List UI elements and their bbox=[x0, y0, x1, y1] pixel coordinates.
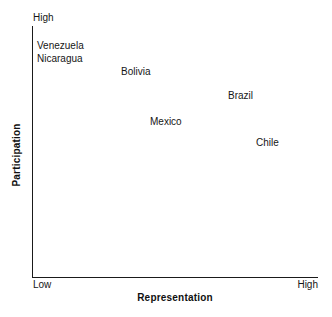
data-point-label: Venezuela bbox=[37, 40, 84, 52]
data-point-label: Bolivia bbox=[121, 66, 150, 78]
data-point-label: Nicaragua bbox=[37, 53, 83, 65]
x-axis-line bbox=[32, 277, 318, 278]
y-axis-high-tick-label: High bbox=[33, 12, 54, 24]
y-axis-title: Participation bbox=[11, 123, 23, 186]
x-axis-low-tick-label: Low bbox=[33, 279, 51, 291]
data-point-label: Brazil bbox=[228, 90, 253, 102]
y-axis-line bbox=[32, 26, 33, 277]
data-point-label: Mexico bbox=[150, 116, 182, 128]
x-axis-title: Representation bbox=[137, 292, 213, 304]
scatter-chart-figure: High Low High Representation Participati… bbox=[0, 0, 332, 317]
data-point-label: Chile bbox=[256, 137, 279, 149]
x-axis-high-tick-label: High bbox=[297, 279, 318, 291]
